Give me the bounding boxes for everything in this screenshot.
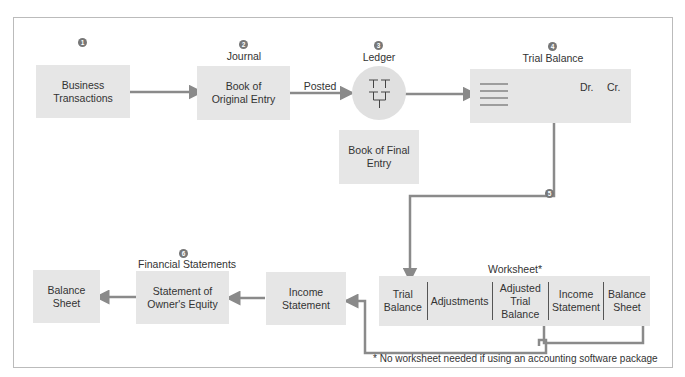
step-2-badge: 2 <box>239 40 248 49</box>
worksheet-box: Trial Balance Adjustments Adjusted Trial… <box>379 276 650 326</box>
step-3-badge: 3 <box>374 41 383 50</box>
ledger-lines-icon <box>480 82 510 112</box>
dr-label: Dr. <box>580 81 593 94</box>
trial-balance-label: Trial Balance <box>515 52 591 64</box>
book-original-entry-box: Book of Original Entry <box>197 66 290 120</box>
step-6-badge: 6 <box>179 249 188 258</box>
balance-sheet-box: Balance Sheet <box>33 270 100 323</box>
financial-statements-label: Financial Statements <box>138 258 228 270</box>
ledger-label: Ledger <box>358 51 400 63</box>
ledger-circle <box>352 66 406 120</box>
ws-col-adjustments: Adjustments <box>428 295 492 308</box>
journal-label: Journal <box>215 50 273 62</box>
ws-col-income-statement: Income Statement <box>549 288 603 314</box>
ws-col-balance-sheet: Balance Sheet <box>604 288 650 314</box>
step-4-badge: 4 <box>548 42 557 51</box>
income-statement-box: Income Statement <box>266 272 346 325</box>
owners-equity-box: Statement of Owner's Equity <box>136 271 229 324</box>
cr-label: Cr. <box>607 81 620 94</box>
ws-col-trial-balance: Trial Balance <box>379 288 427 314</box>
posted-label: Posted <box>300 80 340 92</box>
footnote: * No worksheet needed if using an accoun… <box>373 353 658 364</box>
business-transactions-box: Business Transactions <box>36 65 130 118</box>
step-1-badge: 1 <box>78 38 87 47</box>
ws-col-adjusted-trial-balance: Adjusted Trial Balance <box>493 282 549 321</box>
book-final-entry-box: Book of Final Entry <box>339 130 419 184</box>
t-account-icon <box>352 66 406 120</box>
trial-balance-box: Dr. Cr. <box>470 69 631 123</box>
step-5-badge: 5 <box>545 189 554 198</box>
worksheet-label: Worksheet* <box>480 263 550 275</box>
